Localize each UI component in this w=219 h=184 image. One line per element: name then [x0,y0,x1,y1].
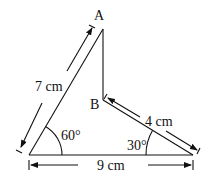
angle-label-60: 60° [61,128,81,143]
angle-arc-60 [46,127,63,156]
dimension-label-9cm: 9 cm [97,158,125,173]
angle-label-30: 30° [127,138,147,153]
angle-arc-30 [146,131,153,156]
geometry-diagram: A B 7 cm 4 cm 9 cm 60° 30° [0,0,219,184]
dimension-label-7cm: 7 cm [35,79,63,94]
point-label-b: B [90,97,99,112]
dimension-label-4cm: 4 cm [145,114,173,129]
point-label-a: A [94,8,105,23]
